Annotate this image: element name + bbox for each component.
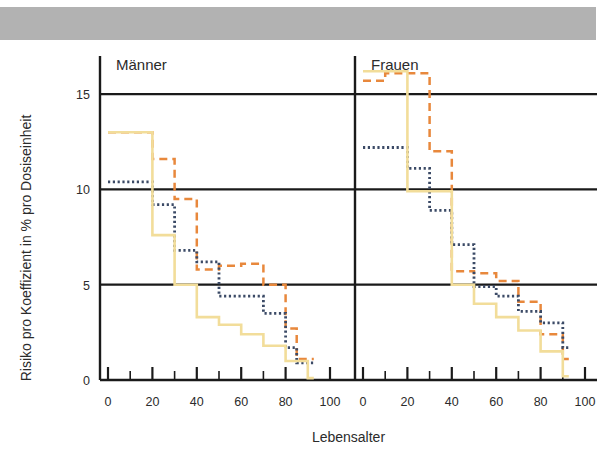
figure-root: Risiko pro Koeffizient in % pro Dosisein… (0, 0, 614, 472)
x-axis-title: Lebensalter (312, 429, 386, 445)
chart-area: Risiko pro Koeffizient in % pro Dosisein… (0, 40, 614, 472)
labels-group: 051015020406080100020406080100MännerFrau… (76, 56, 595, 445)
panel-title-maenner: Männer (116, 56, 167, 73)
x-tick-label-0-0: 0 (105, 395, 112, 409)
x-tick-label-0-60: 60 (234, 395, 248, 409)
x-tick-label-1-100: 100 (575, 395, 596, 409)
series-path-frauen-series-orange-dashed (363, 73, 569, 359)
series-group (108, 71, 569, 378)
series-path-frauen-series-yellow-solid (363, 71, 569, 376)
plot-svg: 051015020406080100020406080100MännerFrau… (0, 40, 614, 472)
y-tick-label-5: 5 (83, 279, 90, 293)
x-tick-label-0-80: 80 (279, 395, 293, 409)
series-path-maenner-series-blue-dotted (108, 182, 314, 363)
x-tick-label-0-40: 40 (190, 395, 204, 409)
y-tick-label-15: 15 (76, 88, 90, 102)
x-tick-label-1-80: 80 (534, 395, 548, 409)
x-tick-label-1-40: 40 (445, 395, 459, 409)
y-tick-label-10: 10 (76, 183, 90, 197)
ticks-group (108, 367, 585, 380)
series-path-frauen-series-blue-dotted (363, 147, 569, 347)
x-tick-label-0-20: 20 (145, 395, 159, 409)
panel-title-frauen: Frauen (371, 56, 419, 73)
series-path-maenner-series-yellow-solid (108, 132, 314, 378)
decorative-header-bar (0, 7, 596, 40)
y-tick-label-0: 0 (83, 374, 90, 388)
x-tick-label-1-0: 0 (360, 395, 367, 409)
series-path-maenner-series-orange-dashed (108, 132, 314, 359)
y-axis-title: Risiko pro Koeffizient in % pro Dosisein… (18, 83, 34, 413)
x-tick-label-1-60: 60 (489, 395, 503, 409)
x-tick-label-0-100: 100 (320, 395, 341, 409)
x-tick-label-1-20: 20 (400, 395, 414, 409)
